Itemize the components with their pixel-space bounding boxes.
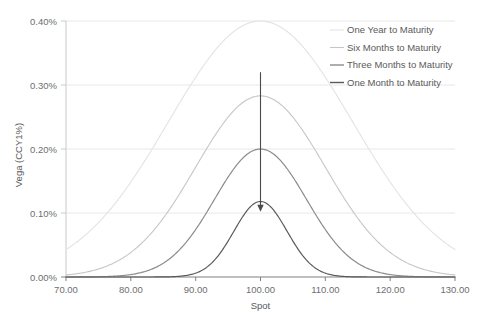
y-tick-label-4: 0.40% [30, 16, 57, 27]
x-axis-title: Spot [251, 300, 271, 311]
x-tick-label-0: 70.00 [54, 284, 78, 295]
x-axis-tick-labels: 70.0080.0090.00100.00110.00120.00130.00 [54, 284, 469, 295]
x-tick-label-5: 120.00 [376, 284, 405, 295]
downward-arrow-annotation [257, 72, 263, 212]
legend: One Year to MaturitySix Months to Maturi… [330, 24, 453, 88]
y-tick-label-1: 0.10% [30, 208, 57, 219]
chart-canvas: 0.00%0.10%0.20%0.30%0.40% 70.0080.0090.0… [0, 0, 478, 324]
y-tick-label-0: 0.00% [30, 272, 57, 283]
y-tick-label-3: 0.30% [30, 80, 57, 91]
y-axis-title: Vega (CCY1%) [13, 123, 24, 187]
annotation-arrow-head [257, 205, 263, 212]
x-tick-label-3: 100.00 [246, 284, 275, 295]
page-bottom-cutoff-text [8, 317, 308, 324]
legend-label-0: One Year to Maturity [347, 24, 434, 35]
y-tick-label-2: 0.20% [30, 144, 57, 155]
x-tick-label-4: 110.00 [311, 284, 339, 295]
legend-label-1: Six Months to Maturity [347, 42, 441, 53]
x-tick-label-2: 90.00 [184, 284, 208, 295]
vega-vs-spot-chart: 0.00%0.10%0.20%0.30%0.40% 70.0080.0090.0… [0, 0, 478, 324]
y-tick-marks [61, 21, 66, 277]
y-axis-tick-labels: 0.00%0.10%0.20%0.30%0.40% [30, 16, 57, 283]
legend-label-3: One Month to Maturity [347, 77, 441, 88]
x-tick-label-1: 80.00 [119, 284, 143, 295]
legend-label-2: Three Months to Maturity [347, 59, 453, 70]
x-tick-label-6: 130.00 [440, 284, 469, 295]
